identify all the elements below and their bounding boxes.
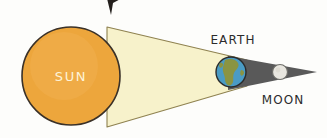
earth-body [216, 57, 246, 87]
moon-body [273, 65, 288, 80]
sun-label: SUN [55, 69, 87, 84]
sun-body: SUN [22, 27, 120, 125]
moon-crater [276, 68, 281, 73]
cursor-arrow-icon [104, 0, 126, 15]
diagram-canvas: SUN EARTH MOON [0, 0, 327, 138]
moon-label: MOON [262, 93, 305, 107]
lunar-eclipse-diagram: SUN EARTH MOON [0, 0, 327, 138]
sun-inner-glow [30, 32, 98, 100]
earth-label: EARTH [210, 33, 255, 47]
moon-circle [273, 65, 288, 80]
